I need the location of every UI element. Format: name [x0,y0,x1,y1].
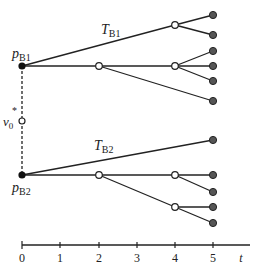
tree-b2-edges [22,140,213,223]
axis-label-t: t [239,251,243,265]
tick-4: 4 [172,251,178,265]
label-tb2: TB2 [94,138,113,155]
time-axis: 0 1 2 3 4 5 t [19,241,250,265]
tick-5: 5 [210,251,216,265]
tick-1: 1 [57,251,63,265]
label-tb1: TB1 [101,22,120,39]
root-node-pb1 [18,62,25,69]
tree-diagram: pB1 pB2 TB1 TB2 v0 * 0 1 2 3 4 5 t [0,0,255,267]
tick-0: 0 [19,251,25,265]
tick-3: 3 [134,251,140,265]
label-pb1: pB1 [11,46,31,63]
leaf-nodes [209,11,216,226]
label-v0: v0 [3,114,14,131]
open-nodes [19,22,178,211]
tick-2: 2 [96,251,102,265]
label-pb2: pB2 [11,180,31,197]
label-v0-star: * [12,105,17,116]
virtual-node [19,118,25,124]
root-node-pb2 [18,171,25,178]
